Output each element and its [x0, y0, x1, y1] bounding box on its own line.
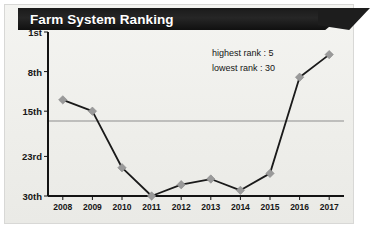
data-line [63, 55, 329, 196]
data-point-2008 [59, 96, 67, 104]
y-axis-label: 30th [12, 191, 42, 202]
x-axis-label: 2013 [201, 202, 220, 212]
data-point-2009 [88, 107, 96, 115]
data-point-2013 [207, 175, 215, 183]
x-axis-label: 2012 [172, 202, 191, 212]
y-axis-label: 15th [12, 106, 42, 117]
annotation-lowest-rank: lowest rank : 30 [212, 63, 275, 73]
x-axis-label: 2017 [320, 202, 339, 212]
x-axis-label: 2015 [261, 202, 280, 212]
x-axis-label: 2014 [231, 202, 250, 212]
y-axis-label: 23rd [12, 151, 42, 162]
data-point-2012 [177, 180, 185, 188]
y-axis-label: 1st [12, 27, 42, 38]
x-axis-label: 2008 [53, 202, 72, 212]
x-axis-label: 2016 [290, 202, 309, 212]
x-axis-label: 2010 [113, 202, 132, 212]
x-axis-label: 2009 [83, 202, 102, 212]
data-point-2015 [266, 169, 274, 177]
x-axis-label: 2011 [142, 202, 160, 212]
data-point-2014 [236, 186, 244, 194]
annotation-highest-rank: highest rank : 5 [212, 48, 274, 58]
y-axis-label: 8th [12, 66, 42, 77]
